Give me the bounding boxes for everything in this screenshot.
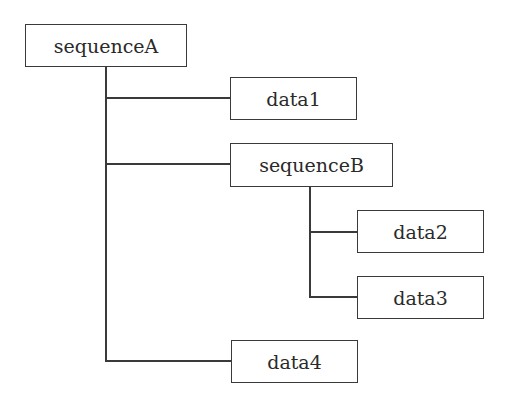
node-sequenceA: sequenceA <box>25 24 187 67</box>
node-label: data1 <box>266 88 321 110</box>
node-data4: data4 <box>231 340 358 383</box>
edge-sequenceA-sequenceB <box>105 163 231 165</box>
edge-sequenceB-data3 <box>309 296 358 298</box>
node-label: sequenceB <box>259 154 364 176</box>
node-label: data3 <box>393 287 448 309</box>
edge-sequenceA-data1 <box>105 97 231 99</box>
node-label: data4 <box>267 351 322 373</box>
trunk-sequenceA <box>105 66 107 362</box>
node-data2: data2 <box>357 210 484 253</box>
node-sequenceB: sequenceB <box>230 143 393 187</box>
node-data3: data3 <box>357 276 484 319</box>
trunk-sequenceB <box>309 186 311 298</box>
edge-sequenceB-data2 <box>309 231 358 233</box>
edge-sequenceA-data4 <box>105 360 232 362</box>
node-data1: data1 <box>230 77 357 120</box>
tree-diagram: sequenceA data1 sequenceB data2 data3 da… <box>0 0 512 401</box>
node-label: sequenceA <box>54 35 158 57</box>
node-label: data2 <box>393 221 448 243</box>
